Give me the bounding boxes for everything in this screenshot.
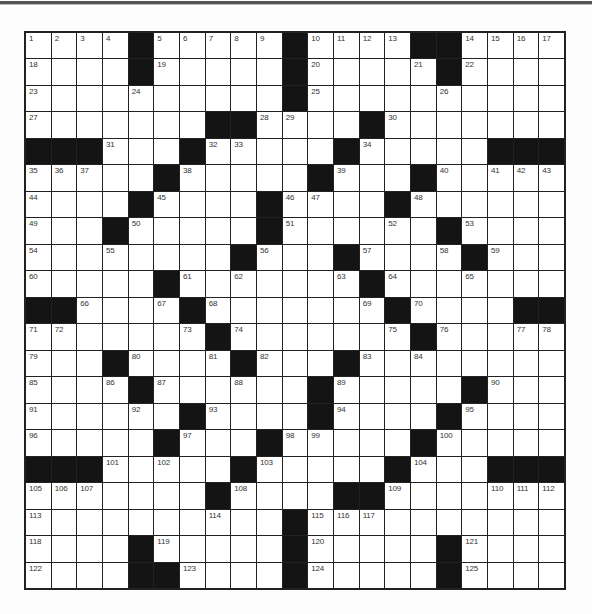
answer-cell[interactable]: 87 bbox=[154, 377, 179, 402]
answer-cell[interactable] bbox=[231, 510, 256, 535]
answer-cell[interactable]: 108 bbox=[231, 483, 256, 508]
answer-cell[interactable]: 79 bbox=[26, 351, 51, 376]
answer-cell[interactable] bbox=[462, 351, 487, 376]
answer-cell[interactable]: 101 bbox=[103, 457, 128, 482]
answer-cell[interactable]: 9 bbox=[257, 33, 282, 58]
answer-cell[interactable] bbox=[231, 404, 256, 429]
answer-cell[interactable]: 48 bbox=[411, 192, 436, 217]
answer-cell[interactable]: 50 bbox=[129, 218, 154, 243]
answer-cell[interactable] bbox=[77, 324, 102, 349]
answer-cell[interactable] bbox=[385, 510, 410, 535]
answer-cell[interactable]: 27 bbox=[26, 112, 51, 137]
answer-cell[interactable] bbox=[308, 139, 333, 164]
answer-cell[interactable] bbox=[514, 59, 539, 84]
answer-cell[interactable] bbox=[385, 59, 410, 84]
answer-cell[interactable]: 70 bbox=[411, 298, 436, 323]
answer-cell[interactable]: 58 bbox=[437, 245, 462, 270]
answer-cell[interactable] bbox=[129, 324, 154, 349]
answer-cell[interactable]: 68 bbox=[206, 298, 231, 323]
answer-cell[interactable] bbox=[385, 351, 410, 376]
answer-cell[interactable] bbox=[283, 377, 308, 402]
answer-cell[interactable]: 55 bbox=[103, 245, 128, 270]
answer-cell[interactable]: 12 bbox=[360, 33, 385, 58]
answer-cell[interactable] bbox=[283, 324, 308, 349]
answer-cell[interactable] bbox=[437, 271, 462, 296]
answer-cell[interactable]: 44 bbox=[26, 192, 51, 217]
answer-cell[interactable] bbox=[103, 271, 128, 296]
answer-cell[interactable] bbox=[103, 404, 128, 429]
answer-cell[interactable] bbox=[257, 271, 282, 296]
answer-cell[interactable] bbox=[308, 457, 333, 482]
answer-cell[interactable] bbox=[52, 404, 77, 429]
answer-cell[interactable] bbox=[206, 536, 231, 561]
answer-cell[interactable] bbox=[488, 563, 513, 588]
answer-cell[interactable] bbox=[308, 351, 333, 376]
answer-cell[interactable]: 20 bbox=[308, 59, 333, 84]
answer-cell[interactable] bbox=[52, 59, 77, 84]
answer-cell[interactable]: 91 bbox=[26, 404, 51, 429]
answer-cell[interactable] bbox=[334, 457, 359, 482]
answer-cell[interactable]: 3 bbox=[77, 33, 102, 58]
answer-cell[interactable] bbox=[283, 245, 308, 270]
answer-cell[interactable]: 17 bbox=[539, 33, 564, 58]
answer-cell[interactable]: 112 bbox=[539, 483, 564, 508]
answer-cell[interactable] bbox=[360, 457, 385, 482]
answer-cell[interactable]: 117 bbox=[360, 510, 385, 535]
answer-cell[interactable]: 26 bbox=[437, 86, 462, 111]
answer-cell[interactable] bbox=[539, 377, 564, 402]
answer-cell[interactable] bbox=[77, 86, 102, 111]
answer-cell[interactable] bbox=[231, 298, 256, 323]
answer-cell[interactable] bbox=[411, 271, 436, 296]
answer-cell[interactable] bbox=[52, 351, 77, 376]
answer-cell[interactable]: 7 bbox=[206, 33, 231, 58]
answer-cell[interactable] bbox=[103, 165, 128, 190]
answer-cell[interactable]: 90 bbox=[488, 377, 513, 402]
answer-cell[interactable] bbox=[52, 536, 77, 561]
answer-cell[interactable] bbox=[103, 563, 128, 588]
answer-cell[interactable] bbox=[257, 510, 282, 535]
answer-cell[interactable] bbox=[231, 165, 256, 190]
answer-cell[interactable]: 28 bbox=[257, 112, 282, 137]
answer-cell[interactable]: 118 bbox=[26, 536, 51, 561]
answer-cell[interactable] bbox=[257, 86, 282, 111]
answer-cell[interactable] bbox=[283, 404, 308, 429]
answer-cell[interactable] bbox=[514, 86, 539, 111]
answer-cell[interactable]: 62 bbox=[231, 271, 256, 296]
answer-cell[interactable]: 72 bbox=[52, 324, 77, 349]
answer-cell[interactable]: 102 bbox=[154, 457, 179, 482]
answer-cell[interactable] bbox=[411, 245, 436, 270]
answer-cell[interactable] bbox=[52, 218, 77, 243]
answer-cell[interactable] bbox=[206, 218, 231, 243]
answer-cell[interactable] bbox=[206, 165, 231, 190]
answer-cell[interactable] bbox=[52, 86, 77, 111]
answer-cell[interactable] bbox=[437, 483, 462, 508]
answer-cell[interactable]: 104 bbox=[411, 457, 436, 482]
answer-cell[interactable] bbox=[129, 165, 154, 190]
answer-cell[interactable] bbox=[52, 377, 77, 402]
answer-cell[interactable] bbox=[360, 324, 385, 349]
answer-cell[interactable] bbox=[77, 510, 102, 535]
answer-cell[interactable] bbox=[488, 112, 513, 137]
answer-cell[interactable] bbox=[231, 430, 256, 455]
answer-cell[interactable] bbox=[514, 112, 539, 137]
answer-cell[interactable]: 93 bbox=[206, 404, 231, 429]
answer-cell[interactable] bbox=[77, 563, 102, 588]
answer-cell[interactable]: 32 bbox=[206, 139, 231, 164]
answer-cell[interactable]: 25 bbox=[308, 86, 333, 111]
answer-cell[interactable] bbox=[385, 404, 410, 429]
answer-cell[interactable] bbox=[154, 86, 179, 111]
answer-cell[interactable]: 76 bbox=[437, 324, 462, 349]
answer-cell[interactable]: 92 bbox=[129, 404, 154, 429]
answer-cell[interactable]: 109 bbox=[385, 483, 410, 508]
answer-cell[interactable]: 60 bbox=[26, 271, 51, 296]
answer-cell[interactable] bbox=[437, 351, 462, 376]
answer-cell[interactable] bbox=[129, 271, 154, 296]
answer-cell[interactable] bbox=[77, 192, 102, 217]
answer-cell[interactable] bbox=[283, 351, 308, 376]
answer-cell[interactable] bbox=[154, 510, 179, 535]
answer-cell[interactable]: 115 bbox=[308, 510, 333, 535]
answer-cell[interactable] bbox=[52, 430, 77, 455]
answer-cell[interactable]: 65 bbox=[462, 271, 487, 296]
answer-cell[interactable]: 103 bbox=[257, 457, 282, 482]
answer-cell[interactable]: 5 bbox=[154, 33, 179, 58]
